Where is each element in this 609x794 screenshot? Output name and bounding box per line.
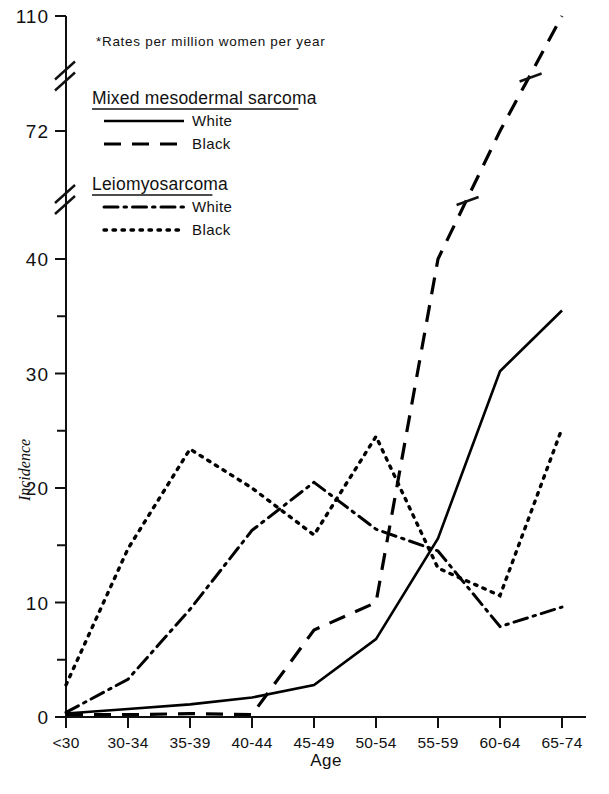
- y-axis-tick-labels: 01020304072110: [16, 6, 49, 728]
- x-tick-label: 35-39: [169, 734, 210, 751]
- y-axis-title: Incidence: [16, 439, 33, 502]
- footnote: *Rates per million women per year: [96, 34, 325, 49]
- x-tick-label: 55-59: [417, 734, 458, 751]
- x-tick-label: 50-54: [355, 734, 396, 751]
- y-tick-label: 72: [26, 121, 49, 142]
- x-tick-label: 30-34: [107, 734, 148, 751]
- series-line-0: [66, 311, 562, 714]
- legend-group-title: Mixed mesodermal sarcoma: [92, 88, 317, 108]
- incidence-chart-figure: 01020304072110 <3030-3435-3940-4445-4950…: [0, 0, 609, 794]
- legend-group-title: Leiomyosarcoma: [92, 174, 228, 194]
- x-tick-label: 40-44: [231, 734, 272, 751]
- legend-entry-label: Black: [192, 135, 231, 152]
- series-break-mark: [520, 74, 542, 82]
- series-line-2: [66, 482, 562, 712]
- x-tick-label: <30: [52, 734, 79, 751]
- y-axis-ticks: [55, 16, 66, 717]
- x-tick-label: 65-74: [541, 734, 582, 751]
- chart-canvas: 01020304072110 <3030-3435-3940-4445-4950…: [0, 0, 609, 794]
- y-tick-label: 40: [26, 249, 49, 270]
- legend-entry-label: White: [192, 198, 232, 215]
- series-line-3: [66, 428, 562, 684]
- x-tick-label: 60-64: [479, 734, 520, 751]
- y-tick-label: 30: [26, 364, 49, 385]
- chart-legend: Mixed mesodermal sarcomaWhiteBlackLeiomy…: [92, 88, 317, 238]
- x-axis-tick-labels: <3030-3435-3940-4445-4950-5455-5960-6465…: [52, 734, 582, 751]
- y-tick-label: 10: [26, 593, 49, 614]
- x-axis-title: Age: [310, 751, 342, 770]
- legend-entry-label: White: [192, 112, 232, 129]
- x-tick-label: 45-49: [293, 734, 334, 751]
- series-break-mark: [457, 197, 479, 205]
- y-tick-label: 110: [16, 6, 49, 27]
- legend-entry-label: Black: [192, 221, 231, 238]
- y-tick-label: 0: [37, 707, 49, 728]
- x-axis-ticks: [66, 717, 562, 728]
